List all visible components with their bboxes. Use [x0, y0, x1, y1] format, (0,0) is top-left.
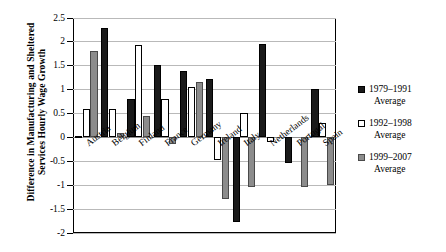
bar — [196, 82, 203, 137]
bar — [75, 136, 82, 138]
gridline — [73, 233, 336, 234]
legend-swatch-icon — [358, 120, 365, 127]
y-tick-label: -0.5 — [25, 156, 65, 166]
y-tick-label: 0.5 — [25, 108, 65, 118]
y-tick-label: -2 — [25, 228, 65, 238]
legend-label: 1999–2007Average — [369, 152, 412, 175]
legend-label-stat: Average — [374, 130, 412, 142]
bar-group — [73, 18, 99, 233]
bar — [259, 44, 266, 137]
legend-item: 1979–1991Average — [358, 84, 444, 107]
y-tick-label: 2.5 — [25, 13, 65, 23]
bar-group — [257, 18, 283, 233]
legend-label-range: 1979–1991 — [369, 84, 412, 96]
bar — [188, 87, 195, 137]
legend: 1979–1991Average1992–1998Average1999–200… — [358, 84, 444, 186]
y-tick-label: -1.5 — [25, 204, 65, 214]
legend-label-stat: Average — [374, 96, 412, 108]
legend-item: 1992–1998Average — [358, 118, 444, 141]
plot-area: 2.521.510.50-0.5-1-1.5-2 AustriaBelgiumF… — [73, 18, 336, 233]
bar — [101, 28, 108, 137]
legend-swatch-icon — [358, 86, 365, 93]
bar — [90, 51, 97, 137]
legend-label-range: 1999–2007 — [369, 152, 412, 164]
legend-label: 1979–1991Average — [369, 84, 412, 107]
y-tick-label: 1.5 — [25, 60, 65, 70]
y-tick-label: 2 — [25, 36, 65, 46]
y-tick — [67, 233, 73, 234]
bar — [233, 137, 240, 222]
legend-item: 1999–2007Average — [358, 152, 444, 175]
bar-chart: Difference in Manufacturing and Sheltere… — [0, 0, 446, 252]
legend-swatch-icon — [358, 154, 365, 161]
bar — [285, 137, 292, 163]
bar — [83, 109, 90, 137]
y-tick-label: -1 — [25, 180, 65, 190]
y-tick-label: 0 — [25, 132, 65, 142]
legend-label: 1992–1998Average — [369, 118, 412, 141]
legend-label-range: 1992–1998 — [369, 118, 412, 130]
legend-label-stat: Average — [374, 164, 412, 176]
y-tick-label: 1 — [25, 84, 65, 94]
